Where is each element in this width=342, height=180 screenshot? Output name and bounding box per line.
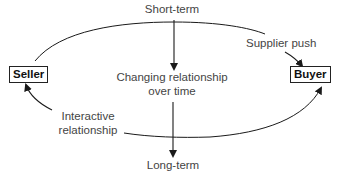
changing-relationship-line1: Changing relationship bbox=[116, 71, 227, 84]
buyer-node: Buyer bbox=[290, 66, 331, 83]
long-term-label: Long-term bbox=[147, 159, 199, 172]
diagram-canvas: Short-term Seller Buyer Changing relatio… bbox=[0, 0, 342, 180]
interactive-arrow bbox=[26, 85, 52, 110]
supplier-push-arrow bbox=[285, 52, 302, 66]
supplier-push-label: Supplier push bbox=[246, 37, 316, 50]
interactive-relationship-line1: Interactive bbox=[61, 110, 114, 123]
changing-relationship-line2: over time bbox=[148, 85, 195, 98]
short-term-label: Short-term bbox=[145, 3, 199, 16]
upper-arc-line bbox=[35, 22, 265, 61]
interactive-relationship-line2: relationship bbox=[59, 124, 118, 137]
seller-node: Seller bbox=[9, 66, 48, 83]
